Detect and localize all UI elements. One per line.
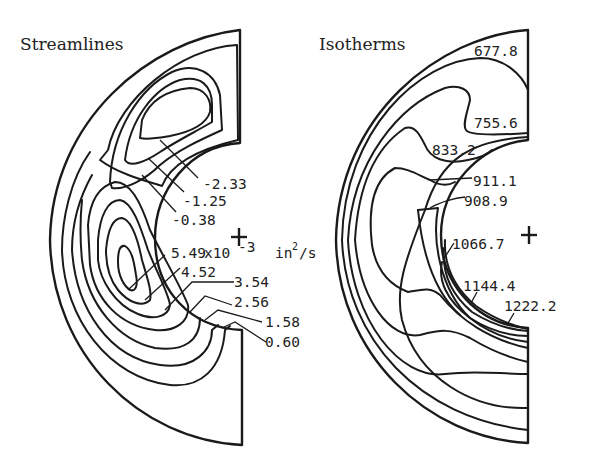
- unit-main: in: [275, 245, 292, 261]
- isotherms-title: Isotherms: [319, 34, 406, 54]
- streamline-contour-inner-neg: [140, 88, 210, 139]
- contour-label: 755.6: [474, 115, 518, 131]
- contour-label: 1066.7: [452, 236, 504, 252]
- streamline-contour-5.49-a: [106, 218, 151, 304]
- figure-canvas: Streamlines -2.33 -1.25 -0.38 5.49: [0, 0, 593, 468]
- contour-label: 833.2: [432, 142, 476, 158]
- unit-exponent: -3: [238, 239, 255, 255]
- contour-label: 677.8: [474, 43, 518, 59]
- leader-line: [205, 310, 262, 322]
- unit-suffix: /s: [299, 245, 316, 261]
- contour-label: 0.60: [265, 334, 300, 350]
- plus-icon: [521, 226, 537, 244]
- streamline-contour: [100, 45, 238, 186]
- unit-prefix: x10: [204, 245, 230, 261]
- contour-label: 2.56: [234, 294, 269, 310]
- contour-label: -2.33: [203, 176, 247, 192]
- unit-exp2: 2: [292, 241, 298, 252]
- streamlines-units-label: 5.49 x10 -3 in 2 /s: [171, 239, 316, 261]
- streamline-contour-4.52: [98, 200, 170, 317]
- streamlines-title: Streamlines: [20, 34, 124, 54]
- contour-label: 1222.2: [504, 298, 556, 314]
- leader-line: [222, 322, 266, 342]
- contour-label: -1.25: [183, 193, 227, 209]
- isotherm-contour-908: [418, 208, 528, 342]
- contour-label: 1.58: [265, 314, 300, 330]
- streamlines-panel: Streamlines -2.33 -1.25 -0.38 5.49: [20, 30, 316, 445]
- streamline-contour-mid-neg: [125, 79, 212, 164]
- leader-line: [145, 268, 180, 300]
- contour-label: 908.9: [464, 193, 508, 209]
- contour-label: 3.54: [234, 274, 269, 290]
- isotherms-panel: Isotherms 677.8 755.6 833.2 911.1 908.9 …: [319, 30, 556, 443]
- isotherm-contour-outer2: [348, 87, 528, 240]
- contour-label: 1144.4: [463, 278, 516, 294]
- isotherm-contour-833-lower: [355, 240, 528, 362]
- leader-line: [190, 296, 232, 312]
- contour-label: 911.1: [473, 173, 517, 189]
- leader-line: [430, 178, 472, 180]
- contour-label: 5.49: [171, 245, 206, 261]
- contour-label: 4.52: [181, 264, 216, 280]
- contour-label: -0.38: [172, 212, 216, 228]
- leader-line: [165, 282, 234, 310]
